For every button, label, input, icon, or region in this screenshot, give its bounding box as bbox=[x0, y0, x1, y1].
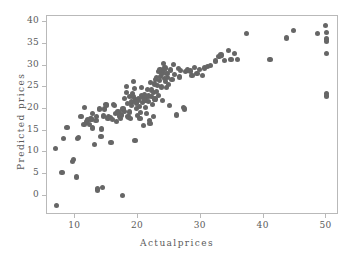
data-point bbox=[151, 114, 156, 119]
y-tick-label: 40 bbox=[27, 15, 39, 25]
data-point bbox=[98, 134, 103, 139]
data-point bbox=[169, 77, 174, 82]
data-point bbox=[232, 51, 237, 56]
y-tick-mark bbox=[42, 173, 46, 174]
data-point bbox=[132, 86, 137, 91]
y-tick-label: 15 bbox=[27, 124, 39, 134]
data-point bbox=[323, 23, 328, 28]
data-point bbox=[315, 31, 320, 36]
data-point bbox=[120, 193, 125, 198]
data-point bbox=[324, 93, 329, 98]
x-tick-label: 40 bbox=[257, 220, 269, 230]
data-point bbox=[108, 140, 113, 145]
data-point bbox=[213, 58, 218, 63]
data-point bbox=[218, 52, 223, 57]
data-point bbox=[167, 103, 172, 108]
data-point bbox=[132, 138, 137, 143]
data-points-layer bbox=[47, 16, 337, 213]
data-point bbox=[177, 74, 182, 79]
y-tick-label: 30 bbox=[27, 59, 39, 69]
data-point bbox=[226, 48, 231, 53]
data-point bbox=[112, 103, 117, 108]
y-tick-mark bbox=[42, 43, 46, 44]
data-point bbox=[78, 114, 83, 119]
data-point bbox=[127, 109, 132, 114]
x-tick-mark bbox=[74, 214, 75, 218]
data-point bbox=[166, 82, 171, 87]
data-point bbox=[284, 35, 289, 40]
y-tick-mark bbox=[42, 195, 46, 196]
x-tick-mark bbox=[263, 214, 264, 218]
data-point bbox=[156, 93, 161, 98]
y-tick-label: 5 bbox=[33, 167, 39, 177]
data-point bbox=[124, 84, 129, 89]
x-axis-title: Actualprices bbox=[0, 238, 354, 248]
data-point bbox=[324, 30, 329, 35]
data-point bbox=[76, 135, 81, 140]
data-point bbox=[147, 121, 152, 126]
y-axis-title: Predicted prices bbox=[16, 73, 26, 170]
x-tick-mark bbox=[137, 214, 138, 218]
y-tick-label: 20 bbox=[27, 102, 39, 112]
data-point bbox=[267, 57, 272, 62]
data-point bbox=[59, 170, 64, 175]
data-point bbox=[144, 111, 149, 116]
data-point bbox=[200, 73, 205, 78]
y-tick-mark bbox=[42, 130, 46, 131]
data-point bbox=[139, 85, 144, 90]
data-point bbox=[100, 185, 105, 190]
y-tick-mark bbox=[42, 108, 46, 109]
data-point bbox=[291, 28, 296, 33]
x-tick-mark bbox=[325, 214, 326, 218]
data-point bbox=[150, 102, 155, 107]
data-point bbox=[143, 105, 148, 110]
data-point bbox=[71, 157, 76, 162]
y-tick-label: 25 bbox=[27, 80, 39, 90]
scatter-plot-figure: 05101520253035401020304050 Actualprices … bbox=[0, 0, 354, 263]
x-tick-mark bbox=[200, 214, 201, 218]
plot-area bbox=[46, 15, 338, 214]
data-point bbox=[222, 58, 227, 63]
data-point bbox=[131, 79, 136, 84]
data-point bbox=[61, 136, 66, 141]
y-tick-mark bbox=[42, 21, 46, 22]
data-point bbox=[174, 112, 179, 117]
data-point bbox=[137, 116, 142, 121]
x-tick-label: 30 bbox=[194, 220, 206, 230]
data-point bbox=[208, 63, 213, 68]
data-point bbox=[160, 98, 165, 103]
data-point bbox=[92, 142, 97, 147]
y-tick-mark bbox=[42, 65, 46, 66]
y-tick-mark bbox=[42, 151, 46, 152]
data-point bbox=[171, 62, 176, 67]
data-point bbox=[82, 105, 87, 110]
data-point bbox=[228, 57, 233, 62]
x-tick-label: 50 bbox=[319, 220, 331, 230]
data-point bbox=[64, 125, 69, 130]
data-point bbox=[53, 146, 58, 151]
data-point bbox=[244, 31, 249, 36]
data-point bbox=[128, 116, 133, 121]
data-point bbox=[74, 174, 79, 179]
data-point bbox=[324, 39, 329, 44]
data-point bbox=[104, 103, 109, 108]
data-point bbox=[54, 203, 59, 208]
x-tick-label: 10 bbox=[68, 220, 80, 230]
data-point bbox=[182, 106, 187, 111]
data-point bbox=[141, 123, 146, 128]
data-point bbox=[138, 110, 143, 115]
y-tick-label: 35 bbox=[27, 37, 39, 47]
y-tick-mark bbox=[42, 86, 46, 87]
data-point bbox=[324, 51, 329, 56]
x-tick-label: 20 bbox=[131, 220, 143, 230]
data-point bbox=[99, 126, 104, 131]
data-point bbox=[90, 125, 95, 130]
data-point bbox=[235, 57, 240, 62]
y-tick-label: 0 bbox=[33, 189, 39, 199]
y-tick-label: 10 bbox=[27, 145, 39, 155]
data-point bbox=[162, 65, 167, 70]
